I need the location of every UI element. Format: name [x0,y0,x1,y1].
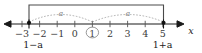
tick-label: 0 [72,29,78,39]
tick-label: −1 [50,29,64,39]
number-line-figure: −3−2−1012345 aa 1−a 1+a x [0,0,202,53]
tick-label: 3 [125,29,131,39]
axis-variable-label: x [188,26,193,36]
tick-label: 5 [160,29,166,39]
measure-arcs [29,15,164,23]
right-endpoint-dot [161,21,165,25]
tick-label: 2 [107,29,113,39]
left-endpoint-label: 1−a [23,40,43,50]
interval-bracket [29,5,164,22]
axis-right-arrow-icon [177,21,184,27]
left-endpoint-dot [27,21,31,25]
tick-label: 1 [89,29,95,39]
axis-left-arrow-icon [4,21,11,27]
tick-label: 4 [142,29,148,39]
tick-label: −2 [33,29,47,39]
arc-length-label: a [126,10,131,18]
tick-label: −3 [15,29,29,39]
arc-length-label: a [59,10,64,18]
right-endpoint-label: 1+a [153,40,173,50]
